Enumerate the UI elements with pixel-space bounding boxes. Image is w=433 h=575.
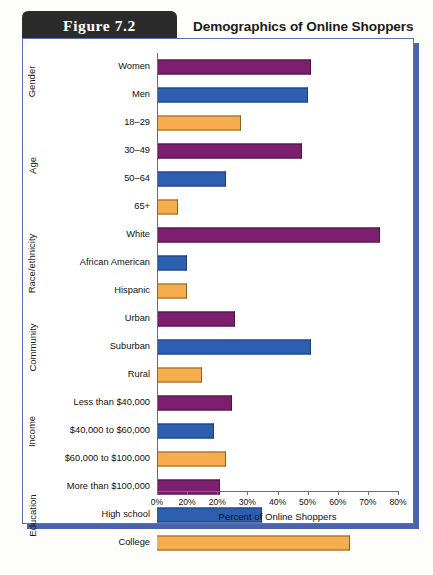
group-label-text: Community <box>27 323 38 371</box>
bar-row: 18–29 <box>41 109 413 137</box>
group-label-text: Race/ethnicity <box>27 233 38 293</box>
x-tick-label: 0% <box>151 497 163 507</box>
bar-row-label: $40,000 to $60,000 <box>41 426 157 435</box>
x-tick <box>217 491 218 495</box>
x-tick <box>278 491 279 495</box>
x-tick-label: 50% <box>299 497 316 507</box>
bar-row: 50–64 <box>41 165 413 193</box>
x-axis-title: Percent of Online Shoppers <box>157 511 398 522</box>
bar-track <box>157 137 413 165</box>
bar-row: $60,000 to $100,000 <box>41 445 413 473</box>
bar-track <box>157 445 413 473</box>
y-axis-line <box>157 53 158 491</box>
bar-row: College <box>41 529 413 557</box>
bar <box>157 452 226 467</box>
bar-row-label: Less than $40,000 <box>41 398 157 407</box>
x-tick-label: 40% <box>269 497 286 507</box>
group-label-text: Education <box>27 494 38 536</box>
bar-row: Men <box>41 81 413 109</box>
x-tick <box>157 491 158 495</box>
bar-row: Urban <box>41 305 413 333</box>
x-tick-label: 80% <box>389 497 406 507</box>
figure-number-label: Figure 7.2 <box>63 17 136 35</box>
group-label: Gender <box>23 53 41 109</box>
bar-row-label: Men <box>41 90 157 99</box>
x-tick <box>398 491 399 495</box>
bar-row-label: White <box>41 230 157 239</box>
bar <box>157 424 214 439</box>
bar-track <box>157 221 413 249</box>
bar-row-label: Women <box>41 62 157 71</box>
bar-track <box>157 277 413 305</box>
bar-row: Rural <box>41 361 413 389</box>
group-label: Education <box>23 473 41 557</box>
bar-track <box>157 529 413 557</box>
bar-row: Suburban <box>41 333 413 361</box>
x-tick <box>247 491 248 495</box>
group-label-text: Income <box>27 415 38 446</box>
bar-row-label: Hispanic <box>41 286 157 295</box>
bar-row-label: Suburban <box>41 342 157 351</box>
bar <box>157 340 311 355</box>
bar-track <box>157 333 413 361</box>
bar-track <box>157 305 413 333</box>
bar-row: White <box>41 221 413 249</box>
figure-page: Figure 7.2 Demographics of Online Shoppe… <box>0 0 433 575</box>
figure-number-tab: Figure 7.2 <box>22 11 177 41</box>
bar-row: 65+ <box>41 193 413 221</box>
bar-track <box>157 249 413 277</box>
group-label: Income <box>23 389 41 473</box>
x-tick-label: 20% <box>179 497 196 507</box>
bar-row: Less than $40,000 <box>41 389 413 417</box>
bar-row-label: Urban <box>41 314 157 323</box>
group-label: Race/ethnicity <box>23 221 41 305</box>
bar-row-label: 30–49 <box>41 146 157 155</box>
bar-row-label: 65+ <box>41 202 157 211</box>
group-label: Community <box>23 305 41 389</box>
bar-track <box>157 193 413 221</box>
x-tick-label: 60% <box>329 497 346 507</box>
group-label-text: Age <box>27 157 38 174</box>
bar <box>157 88 308 103</box>
card-shadow-right <box>414 43 419 529</box>
bar-row: $40,000 to $60,000 <box>41 417 413 445</box>
bar-track <box>157 417 413 445</box>
x-tick-label: 20% <box>209 497 226 507</box>
x-tick <box>338 491 339 495</box>
bar-row: African American <box>41 249 413 277</box>
bar <box>157 256 187 271</box>
bar <box>157 312 235 327</box>
x-tick <box>187 491 188 495</box>
group-label-text: Gender <box>27 65 38 97</box>
bar-row-label: 18–29 <box>41 118 157 127</box>
bar <box>157 536 350 551</box>
bar-row: Hispanic <box>41 277 413 305</box>
bar <box>157 116 241 131</box>
bar-chart: GenderAgeRace/ethnicityCommunityIncomeEd… <box>23 39 413 523</box>
bar <box>157 396 232 411</box>
bar <box>157 172 226 187</box>
bar-row-label: More than $100,000 <box>41 482 157 491</box>
bar-track <box>157 109 413 137</box>
bar-row-label: College <box>41 538 157 547</box>
figure-card: GenderAgeRace/ethnicityCommunityIncomeEd… <box>22 38 414 524</box>
bar-row: More than $100,000 <box>41 473 413 501</box>
bar-row: Women <box>41 53 413 81</box>
bar-track <box>157 389 413 417</box>
bar-row-label: Rural <box>41 370 157 379</box>
x-tick-label: 30% <box>239 497 256 507</box>
bar <box>157 200 178 215</box>
figure-title: Demographics of Online Shoppers <box>193 19 413 34</box>
bar <box>157 368 202 383</box>
bar-row-label: High school <box>41 510 157 519</box>
bar-track <box>157 81 413 109</box>
x-tick <box>368 491 369 495</box>
bar-row-label: 50–64 <box>41 174 157 183</box>
bar-track <box>157 361 413 389</box>
bar-track <box>157 165 413 193</box>
bar-row: 30–49 <box>41 137 413 165</box>
bar <box>157 60 311 75</box>
group-label: Age <box>23 109 41 221</box>
bar <box>157 144 302 159</box>
bar-row-label: African American <box>41 258 157 267</box>
